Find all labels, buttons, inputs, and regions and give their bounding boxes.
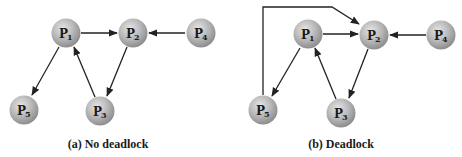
svg-text:3: 3 xyxy=(101,110,107,120)
svg-text:4: 4 xyxy=(442,34,448,44)
node-p4: P 4 xyxy=(187,19,216,48)
svg-text:3: 3 xyxy=(342,112,348,122)
node-p1: P 1 xyxy=(52,19,81,48)
node-p3: P 3 xyxy=(327,99,356,128)
node-p2: P 2 xyxy=(360,21,389,50)
edge-p3-to-p1 xyxy=(74,47,95,97)
caption-a: (a) No deadlock xyxy=(68,137,149,151)
edge-p2-to-p3 xyxy=(107,47,127,96)
node-p5: P 5 xyxy=(249,96,278,125)
svg-text:2: 2 xyxy=(134,32,140,42)
node-p1: P 1 xyxy=(294,20,323,49)
svg-text:5: 5 xyxy=(264,109,270,119)
node-p3: P 3 xyxy=(86,97,115,126)
edge-p1-to-p5 xyxy=(32,47,59,95)
panel-a-no-deadlock: P 1 P 2 P 4 P 5 P 3 (a) No deadlock xyxy=(10,19,216,152)
node-p4: P 4 xyxy=(427,21,456,50)
node-p2: P 2 xyxy=(119,19,148,48)
node-p5: P 5 xyxy=(10,96,39,125)
svg-text:1: 1 xyxy=(309,33,315,43)
svg-text:4: 4 xyxy=(202,32,208,42)
svg-text:5: 5 xyxy=(25,109,31,119)
svg-text:2: 2 xyxy=(375,34,381,44)
deadlock-diagram: P 1 P 2 P 4 P 5 P 3 (a) No deadlock xyxy=(0,0,462,157)
svg-text:1: 1 xyxy=(67,32,73,42)
edge-p3-to-p1 xyxy=(315,48,336,99)
edge-p1-to-p5 xyxy=(272,48,300,96)
caption-b: (b) Deadlock xyxy=(308,137,374,151)
panel-b-deadlock: P 1 P 2 P 4 P 5 P 3 (b) Deadlock xyxy=(249,7,456,151)
edge-p2-to-p3 xyxy=(349,49,368,98)
